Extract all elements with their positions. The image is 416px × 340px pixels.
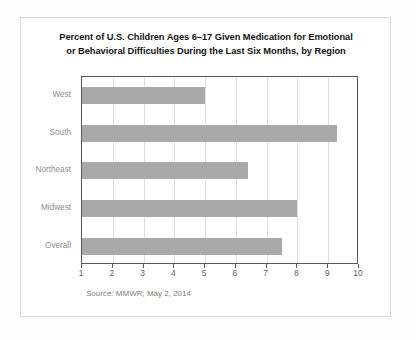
x-label-6: 6: [233, 268, 238, 278]
x-label-2: 2: [109, 268, 114, 278]
bar-row: [82, 227, 357, 265]
bar-row: [82, 115, 357, 153]
bar-south: [82, 125, 337, 142]
x-label-10: 10: [353, 268, 362, 278]
y-label-midwest: Midwest: [41, 189, 71, 227]
x-axis-labels: 12345678910: [81, 268, 358, 282]
bar-midwest: [82, 200, 297, 217]
bar-row: [82, 77, 357, 115]
chart-title: Percent of U.S. Children Ages 6–17 Given…: [30, 31, 382, 58]
bar-series: [82, 77, 357, 263]
x-label-1: 1: [79, 268, 84, 278]
y-label-northeast: Northeast: [36, 151, 72, 189]
plot-area: [81, 76, 358, 264]
x-label-5: 5: [202, 268, 207, 278]
x-label-7: 7: [263, 268, 268, 278]
bar-northeast: [82, 162, 248, 179]
x-label-4: 4: [171, 268, 176, 278]
chart-title-line-2: or Behavioral Difficulties During the La…: [30, 45, 382, 59]
x-label-9: 9: [325, 268, 330, 278]
source-label: Source:: [86, 289, 114, 298]
bar-west: [82, 87, 205, 104]
x-label-8: 8: [294, 268, 299, 278]
y-label-west: West: [52, 76, 71, 114]
bar-row: [82, 190, 357, 228]
source-note: Source: MMWR, May 2, 2014: [86, 289, 191, 298]
bar-overall: [82, 238, 282, 255]
y-axis-labels: WestSouthNortheastMidwestOverall: [0, 76, 76, 264]
x-label-3: 3: [140, 268, 145, 278]
source-text: MMWR, May 2, 2014: [114, 289, 191, 298]
y-label-overall: Overall: [45, 226, 71, 264]
y-label-south: South: [50, 114, 71, 152]
chart-title-line-1: Percent of U.S. Children Ages 6–17 Given…: [30, 31, 382, 45]
chart-page: Percent of U.S. Children Ages 6–17 Given…: [0, 0, 416, 340]
bar-row: [82, 152, 357, 190]
